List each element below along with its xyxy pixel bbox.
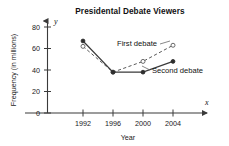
x-tick-label-2004: 2004 [165,119,181,128]
data-point [141,70,145,74]
x-tick-label-1996: 1996 [105,119,121,128]
chart-container: Presidental Debate Viewers y x 0 20 40 6… [0,0,229,146]
data-point [111,70,115,74]
y-axis-title: Frequency (in millions) [9,34,18,106]
y-tick-label-40: 40 [32,66,40,75]
data-point [171,60,175,64]
x-axis-title: Year [121,133,136,142]
y-tick-label-60: 60 [32,44,40,53]
data-point [141,59,145,63]
y-axis-symbol: y [53,17,58,26]
y-tick-label-0: 0 [36,109,40,118]
y-tick-label-80: 80 [32,23,40,32]
x-axis-symbol: x [204,98,209,107]
x-tick-label-1992: 1992 [75,119,91,128]
data-point [81,44,85,48]
presidential-debate-viewers-line-chart: Presidental Debate Viewers y x 0 20 40 6… [0,0,229,146]
chart-title: Presidental Debate Viewers [75,7,185,16]
y-tick-label-20: 20 [32,87,40,96]
series-label-first-debate: First debate [117,39,157,48]
data-point [171,43,175,47]
x-tick-label-2000: 2000 [135,119,151,128]
data-point [81,39,85,43]
series-label-second-debate: Second debate [152,66,203,75]
